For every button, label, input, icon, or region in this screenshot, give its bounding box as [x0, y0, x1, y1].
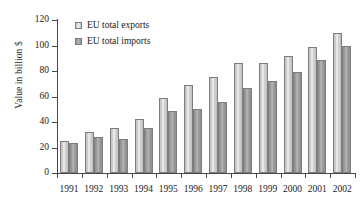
bar-exports: [184, 85, 193, 173]
bar-exports: [159, 98, 168, 173]
x-axis-tick: [57, 174, 58, 178]
bar-exports: [234, 63, 243, 173]
bar-imports: [144, 128, 153, 173]
y-axis-tick-label: 120: [9, 15, 49, 25]
y-axis-tick-label: 80: [9, 66, 49, 76]
legend-swatch-imports-icon: [75, 38, 82, 45]
x-axis-tick: [181, 174, 182, 178]
y-axis-tick-label: 100: [9, 41, 49, 51]
x-axis-tick: [330, 174, 331, 178]
x-axis-tick: [256, 174, 257, 178]
bar-exports: [284, 56, 293, 173]
legend-swatch-exports-icon: [75, 22, 82, 29]
bar-imports: [268, 81, 277, 173]
bar-exports: [85, 132, 94, 173]
x-axis-tick: [281, 174, 282, 178]
x-axis-tick: [305, 174, 306, 178]
legend-item-exports: EU total exports: [75, 18, 150, 32]
bar-exports: [209, 77, 218, 173]
bar-chart: Value in billion $ 020406080100120 19911…: [0, 0, 362, 208]
x-axis-tick: [206, 174, 207, 178]
bar-imports: [193, 109, 202, 173]
x-axis-tick: [156, 174, 157, 178]
bar-exports: [135, 119, 144, 173]
bar-exports: [308, 47, 317, 173]
y-axis-tick-label: 60: [9, 92, 49, 102]
bar-imports: [168, 111, 177, 173]
y-axis-tick-label: 20: [9, 143, 49, 153]
bar-imports: [94, 137, 103, 173]
bar-imports: [218, 102, 227, 173]
legend-item-imports: EU total imports: [75, 34, 150, 48]
bar-exports: [60, 141, 69, 174]
y-axis-tick-label: 40: [9, 117, 49, 127]
x-axis-tick-label: 2002: [322, 184, 362, 194]
bar-imports: [243, 88, 252, 173]
bar-imports: [293, 72, 302, 173]
x-axis-tick: [355, 174, 356, 178]
bar-imports: [317, 60, 326, 173]
bar-imports: [342, 46, 351, 173]
y-axis-tick-label: 0: [9, 168, 49, 178]
bar-exports: [110, 128, 119, 173]
legend-label-exports: EU total exports: [87, 20, 149, 30]
bar-imports: [69, 143, 78, 173]
bar-imports: [119, 139, 128, 173]
bar-exports: [333, 33, 342, 173]
legend-label-imports: EU total imports: [87, 36, 150, 46]
x-axis-tick: [107, 174, 108, 178]
x-axis-tick: [82, 174, 83, 178]
chart-legend: EU total exports EU total imports: [75, 18, 150, 50]
x-axis-tick: [132, 174, 133, 178]
x-axis-tick: [231, 174, 232, 178]
bar-exports: [259, 63, 268, 173]
